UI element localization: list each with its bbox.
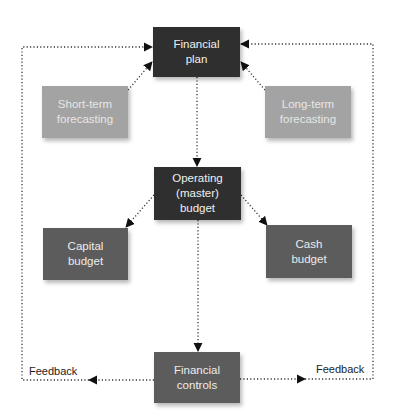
- arrow-long-term-to-plan: [241, 62, 265, 90]
- arrow-operating-to-capital: [126, 195, 154, 227]
- node-operating-line2: (master): [176, 187, 219, 199]
- node-cash-line2: budget: [291, 253, 326, 265]
- node-cash-line1: Cash: [296, 238, 323, 250]
- node-operating-line3: budget: [180, 202, 215, 214]
- node-long-term-forecasting: Long-term forecasting: [265, 86, 351, 138]
- node-capital-budget: Capital budget: [43, 228, 128, 280]
- node-short-term-line1: Short-term: [58, 98, 112, 110]
- node-controls-line1: Financial: [174, 364, 220, 376]
- feedback-label-left: Feedback: [29, 365, 77, 377]
- node-long-term-line1: Long-term: [282, 98, 334, 110]
- node-operating-line1: Operating: [172, 172, 223, 184]
- node-capital-line1: Capital: [68, 240, 104, 252]
- arrow-operating-to-cash: [241, 195, 267, 225]
- node-capital-line2: budget: [68, 255, 103, 267]
- node-short-term-forecasting: Short-term forecasting: [42, 86, 128, 138]
- node-controls-line2: controls: [177, 379, 217, 391]
- node-cash-budget: Cash budget: [266, 225, 352, 278]
- node-long-term-line2: forecasting: [280, 113, 336, 125]
- node-financial-controls: Financial controls: [154, 352, 240, 403]
- node-operating-budget: Operating (master) budget: [154, 167, 241, 220]
- node-short-term-line2: forecasting: [57, 113, 113, 125]
- arrow-short-term-to-plan: [128, 62, 152, 90]
- node-financial-plan-line1: Financial: [173, 38, 219, 50]
- node-financial-plan-line2: plan: [186, 53, 208, 65]
- feedback-label-right: Feedback: [316, 363, 364, 375]
- node-financial-plan: Financial plan: [153, 27, 240, 77]
